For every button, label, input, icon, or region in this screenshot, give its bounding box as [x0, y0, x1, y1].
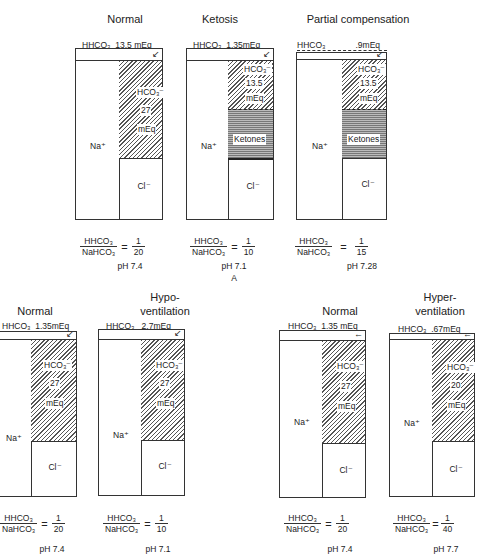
hco3-unit: mEq [156, 398, 175, 409]
hco3-value: 27 [340, 381, 351, 392]
ratio-equation: HHCO₃NaHCO₃=120 [284, 513, 349, 534]
ion-column: ← Na⁺ HCO₃⁻ 27 mEq Cl⁻ [279, 330, 366, 498]
panel-title: Normal [5, 304, 65, 318]
hco3-label: HCO₃⁻ [446, 362, 475, 373]
arrow-icon: ↙ [66, 329, 74, 339]
panel-title: Hyper-ventilation [395, 290, 484, 318]
arrow-icon: ← [463, 329, 472, 339]
hco3-region [141, 340, 184, 440]
ph-value: pH 7.7 [424, 544, 468, 554]
hco3-unit: mEq [137, 124, 156, 135]
hco3-label: HCO₃⁻ [136, 87, 165, 98]
cl-label: Cl⁻ [126, 181, 162, 191]
hco3-region [322, 341, 365, 443]
ion-column: ↙ Na⁺ HCO₃⁻ 13.5 mEq Ketones Cl⁻ [296, 52, 387, 220]
hco3-unit: mEq [337, 401, 356, 412]
na-region [76, 61, 120, 219]
cl-label: Cl⁻ [147, 461, 183, 471]
hhco3-band [99, 330, 184, 340]
ph-value: pH 7.4 [318, 544, 362, 554]
ph-value: pH 7.4 [30, 544, 74, 554]
ratio-equation: HHCO₃NaHCO₃=115 [295, 236, 368, 257]
ratio-equation: HHCO₃NaHCO₃=140 [393, 513, 454, 534]
cl-label: Cl⁻ [328, 465, 364, 475]
arrow-icon: ↙ [152, 49, 160, 59]
hco3-value: 13.5 [245, 78, 264, 89]
ion-column: ↙ Na⁺ HCO₃⁻ 27 mEq Cl⁻ [0, 331, 77, 497]
ratio-equation: HHCO₃NaHCO₃=120 [80, 236, 145, 257]
na-label: Na⁺ [302, 141, 338, 151]
cl-label: Cl⁻ [350, 179, 386, 189]
na-label: Na⁺ [284, 417, 320, 427]
ion-column: ↙ Na⁺ HCO₃⁻ 27 mEq Cl⁻ [75, 48, 163, 220]
arrow-icon: ← [354, 329, 363, 339]
na-label: Na⁺ [191, 141, 227, 151]
ion-column: ↙ Na⁺ HCO₃⁻ 13.5 mEq Ketones Cl⁻ [186, 48, 274, 220]
arrow-icon: ↙ [376, 49, 384, 59]
hco3-region [31, 340, 76, 441]
cl-label: Cl⁻ [235, 181, 271, 191]
hco3-label: HCO₃⁻ [43, 360, 72, 371]
hhco3-band [0, 332, 76, 340]
hhco3-band [76, 49, 162, 61]
hco3-label: HCO₃⁻ [357, 64, 386, 75]
cl-label: Cl⁻ [438, 464, 474, 474]
ph-value: pH 7.4 [110, 261, 150, 271]
hco3-value: 27 [140, 105, 151, 116]
na-label: Na⁺ [0, 433, 29, 443]
hhco3-label: HHCO₃ 1.35mEq [2, 321, 69, 331]
ion-column: ← Na⁺ HCO₃⁻ 20 mEq Cl⁻ [389, 333, 475, 497]
hhco3-band [280, 331, 365, 341]
ratio-equation: HHCO₃NaHCO₃=110 [103, 513, 168, 534]
hco3-unit: mEq [447, 400, 466, 411]
hhco3-band [297, 53, 386, 60]
ratio-equation: HHCO₃NaHCO₃=110 [190, 236, 255, 257]
hco3-unit: mEq [245, 93, 264, 104]
na-label: Na⁺ [394, 418, 430, 428]
panel-title: Hypo-ventilation [120, 290, 210, 318]
hhco3-label: HHCO₃.9mEq [297, 40, 387, 51]
hco3-value: 20 [450, 380, 461, 391]
na-label: Na⁺ [103, 430, 139, 440]
ratio-equation: HHCO₃NaHCO₃=120 [0, 513, 65, 534]
ph-value: pH 7.1 [214, 261, 254, 271]
na-region [297, 60, 343, 219]
hco3-value: 27 [49, 378, 60, 389]
panel-title: Ketosis [170, 12, 270, 26]
figure-sublabel: A [224, 273, 244, 283]
hco3-label: HCO₃⁻ [243, 64, 272, 75]
arrow-icon: ↙ [263, 49, 271, 59]
ph-value: pH 7.1 [136, 544, 180, 554]
panel-title: Normal [75, 12, 175, 26]
hco3-label: HCO₃⁻ [336, 361, 365, 372]
cl-label: Cl⁻ [37, 462, 73, 472]
ion-column: ↙ Na⁺ HCO₃⁻ 27 mEq Cl⁻ [98, 329, 185, 496]
na-region [187, 61, 229, 219]
na-region [0, 340, 32, 496]
hco3-unit: mEq [45, 398, 64, 409]
na-region [99, 340, 142, 495]
panel-title: Normal [300, 304, 380, 318]
hco3-value: 13.5 [359, 78, 378, 89]
hco3-label: HCO₃⁻ [155, 360, 184, 371]
hco3-unit: mEq [359, 93, 378, 104]
hhco3-band [187, 49, 273, 61]
hco3-value: 27 [159, 378, 170, 389]
arrow-icon: ↙ [174, 328, 182, 338]
ph-value: pH 7.28 [340, 261, 384, 271]
ketones-label: Ketones [233, 134, 266, 145]
ketones-label: Ketones [347, 134, 380, 145]
panel-title: Partial compensation [288, 12, 428, 26]
na-label: Na⁺ [80, 141, 116, 151]
